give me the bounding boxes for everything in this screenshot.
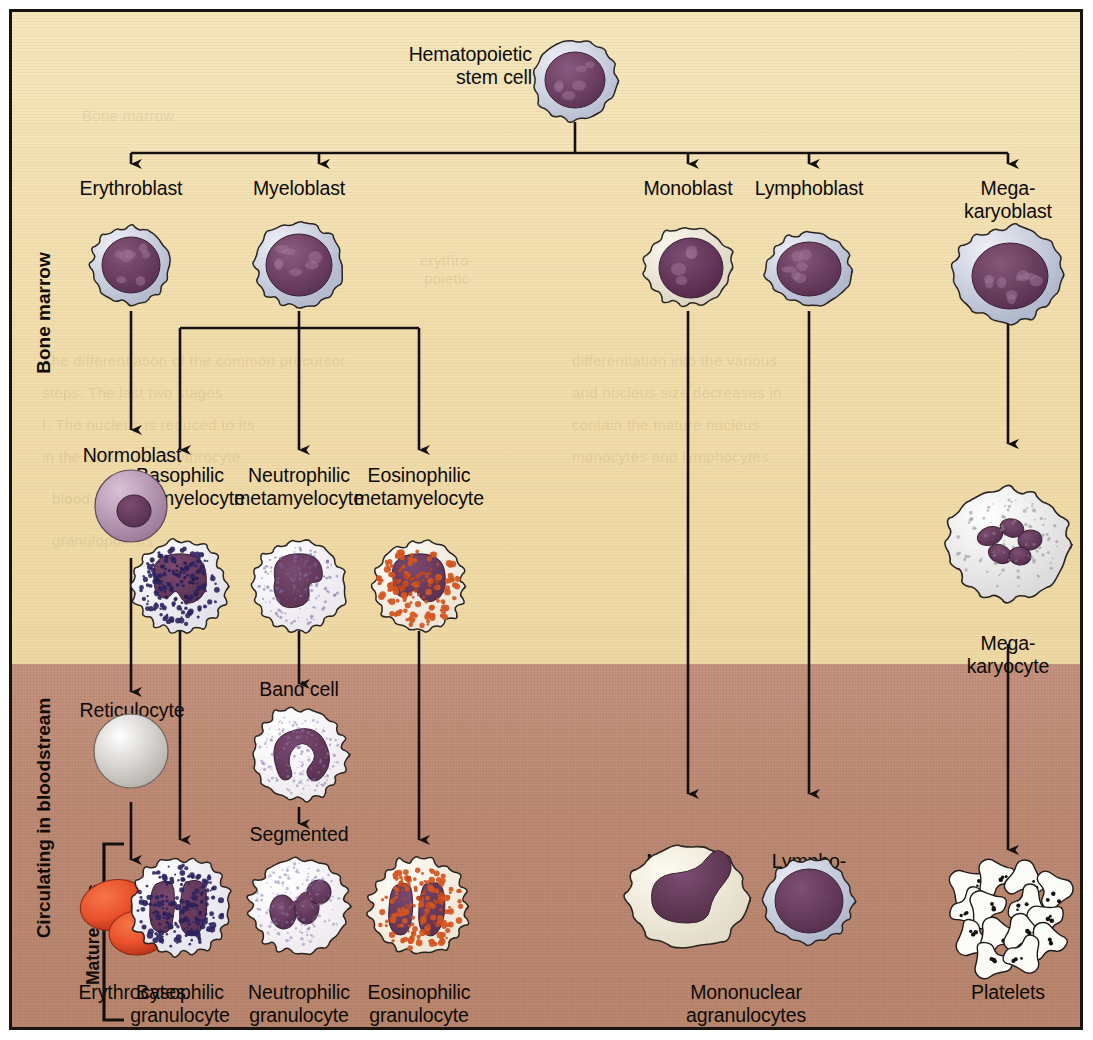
cell-eosinophilic-metamyelocyte xyxy=(367,534,471,638)
label-erythroblast: Erythroblast xyxy=(41,177,221,200)
cell-reticulocyte xyxy=(89,709,173,793)
cell-monocyte xyxy=(620,839,756,955)
label-eosinophilic-granulocyte: Eosinophilic granulocyte xyxy=(333,981,505,1026)
label-megakaryocyte: Mega- karyocyte xyxy=(928,632,1083,677)
cell-neutrophilic-granulocyte xyxy=(244,851,354,961)
label-platelets: Platelets xyxy=(928,981,1083,1004)
label-mononuclear-agranulocytes: Mononuclear agranulocytes xyxy=(626,981,866,1026)
cell-platelets xyxy=(940,853,1076,971)
side-label-bone-marrow: Bone marrow xyxy=(33,243,55,383)
figure-canvas: Bone marrowerythro-poieticThe differenti… xyxy=(0,0,1093,1040)
label-megakaryoblast: Mega- karyoblast xyxy=(928,177,1083,222)
cell-basophilic-metamyelocyte xyxy=(128,534,232,638)
label-stem-cell: Hematopoietic stem cell xyxy=(322,43,532,88)
cell-erythroblast xyxy=(87,221,175,309)
cell-lymphoblast xyxy=(763,227,855,311)
cell-monoblast xyxy=(640,223,736,311)
label-segmented: Segmented xyxy=(215,823,383,846)
figure-frame: Bone marrowerythro-poieticThe differenti… xyxy=(9,9,1083,1030)
cell-megakaryocyte xyxy=(940,482,1076,606)
cell-basophilic-granulocyte xyxy=(125,851,235,961)
cell-myeloblast xyxy=(251,217,347,313)
cell-neutrophilic-metamyelocyte xyxy=(247,534,351,638)
cell-hematopoietic-stem-cell xyxy=(529,34,621,126)
label-band-cell: Band cell xyxy=(219,678,379,701)
cell-lymphocyte xyxy=(759,853,859,949)
label-lymphoblast: Lymphoblast xyxy=(726,177,892,200)
label-myeloblast: Myeloblast xyxy=(209,177,389,200)
cell-band-cell xyxy=(246,701,352,807)
cell-megakaryoblast xyxy=(950,222,1066,326)
cell-eosinophilic-granulocyte xyxy=(364,851,474,961)
label-eosinophilic-metamyelocyte: Eosinophilic metamyelocyte xyxy=(333,464,505,509)
